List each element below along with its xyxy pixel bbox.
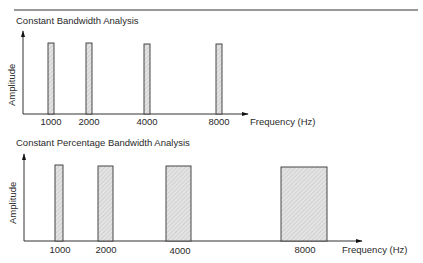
tick-label: 4000	[136, 116, 157, 127]
tick-label: 2000	[95, 244, 116, 255]
bar-1000	[55, 165, 63, 241]
tick-label: 1000	[40, 116, 61, 127]
chart-title: Constant Bandwidth Analysis	[16, 15, 139, 26]
constant-percentage-bandwidth-chart: Constant Percentage Bandwidth Analysis A…	[7, 137, 407, 256]
tick-label: 4000	[169, 245, 190, 256]
bar-2000	[98, 166, 113, 241]
tick-label: 2000	[78, 116, 99, 127]
bar-8000	[281, 167, 327, 241]
bar-4000	[144, 44, 150, 114]
y-axis-label: Amplitude	[6, 64, 17, 106]
bar-4000	[166, 166, 191, 241]
y-axis-label: Amplitude	[7, 182, 18, 224]
tick-label: 1000	[49, 244, 70, 255]
bar-8000	[216, 44, 222, 114]
bar-1000	[48, 43, 54, 114]
tick-label: 8000	[208, 116, 229, 127]
x-axis-label: Frequency (Hz)	[250, 116, 315, 127]
bar-2000	[86, 43, 92, 114]
chart-title: Constant Percentage Bandwidth Analysis	[16, 137, 190, 148]
tick-label: 8000	[294, 244, 315, 255]
bandwidth-diagram: Constant Bandwidth Analysis Amplitude Fr…	[0, 0, 423, 263]
x-axis-label: Frequency (Hz)	[342, 244, 407, 255]
constant-bandwidth-chart: Constant Bandwidth Analysis Amplitude Fr…	[6, 15, 315, 127]
